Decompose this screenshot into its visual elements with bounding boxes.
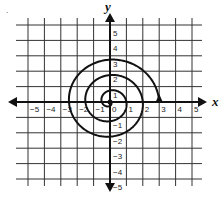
y-tick-label: 4 <box>113 44 118 53</box>
y-tick-label: −2 <box>113 137 123 146</box>
spiral-end-arrow-icon <box>155 94 163 103</box>
x-tick-label: 0 <box>112 105 117 114</box>
coordinate-plane: . x y −5−4−3−2−1012345 54321−1−2−3−4−5 <box>0 0 222 202</box>
x-tick-label: −1 <box>96 105 106 114</box>
y-axis-up-arrow-icon <box>105 13 115 22</box>
x-tick-label: 3 <box>161 105 166 114</box>
x-axis-label: x <box>211 94 219 109</box>
x-tick-label: 2 <box>145 105 150 114</box>
x-tick-labels: −5−4−3−2−1012345 <box>30 105 199 114</box>
y-tick-label: 5 <box>113 29 118 38</box>
y-axis-label: y <box>103 0 111 14</box>
x-tick-label: 5 <box>194 105 199 114</box>
stray-mark: . <box>6 6 8 15</box>
y-tick-label: −3 <box>113 152 123 161</box>
x-tick-label: 1 <box>128 105 133 114</box>
x-tick-label: −4 <box>46 105 56 114</box>
y-tick-label: 3 <box>113 60 118 69</box>
y-tick-label: −1 <box>113 121 123 130</box>
x-axis-left-arrow-icon <box>8 97 17 107</box>
x-axis-right-arrow-icon <box>198 97 207 107</box>
y-tick-label: −5 <box>113 183 123 192</box>
y-tick-label: 2 <box>113 75 118 84</box>
x-tick-label: −5 <box>30 105 40 114</box>
origin-dot <box>108 100 113 105</box>
x-tick-label: 4 <box>178 105 183 114</box>
y-tick-label: −4 <box>113 168 123 177</box>
